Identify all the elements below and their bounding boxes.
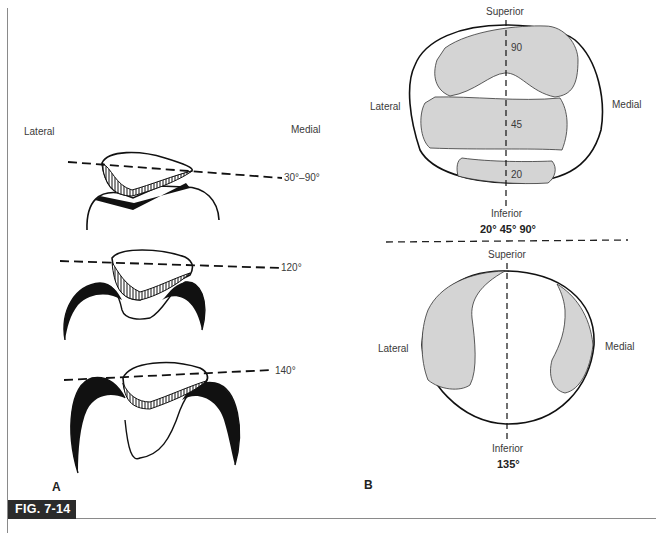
figure-number-badge: FIG. 7-14 [8, 500, 76, 519]
angle-label-120: 120° [281, 262, 302, 273]
bottom-angle-caption: 135° [497, 458, 520, 470]
contact-zone-45 [421, 97, 567, 150]
top-lateral-label: Lateral [370, 101, 401, 112]
panel-a-medial-label: Medial [291, 124, 320, 135]
top-angles-caption: 20° 45° 90° [480, 223, 536, 235]
patella-contact-map-135 [422, 263, 594, 440]
left-condyle-cartilage [71, 377, 125, 473]
left-condyle-cartilage [64, 283, 122, 340]
panel-b-letter: B [364, 478, 373, 492]
bottom-medial-label: Medial [605, 341, 634, 352]
top-medial-label: Medial [612, 99, 641, 110]
figure-drawing [0, 0, 656, 533]
zone-label-20: 20 [511, 169, 522, 180]
bottom-superior-label: Superior [488, 249, 526, 260]
patella-view-140 [64, 363, 272, 473]
femoral-condyles [87, 186, 219, 230]
bottom-lateral-label: Lateral [378, 343, 409, 354]
top-inferior-label: Inferior [491, 208, 522, 219]
panel-a-lateral-label: Lateral [24, 126, 55, 137]
panel-a-letter: A [52, 480, 61, 494]
zone-label-45: 45 [511, 119, 522, 130]
top-superior-label: Superior [486, 6, 524, 17]
patella-contact-map-20-45-90 [410, 20, 603, 206]
zone-label-90: 90 [511, 42, 522, 53]
patella-view-120 [60, 250, 280, 340]
panel-b-divider [386, 240, 628, 242]
angle-label-140: 140° [275, 365, 296, 376]
bottom-inferior-label: Inferior [492, 443, 523, 454]
angle-label-30-90: 30°–90° [284, 172, 320, 183]
patella-view-30-90 [68, 153, 282, 230]
